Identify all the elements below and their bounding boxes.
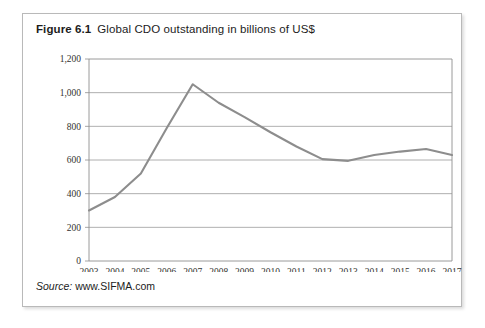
x-axis-tick-label: 2014	[365, 267, 384, 272]
x-axis-tick-label: 2017	[443, 267, 462, 272]
y-axis-tick-label: 800	[67, 122, 82, 132]
y-axis-tick-label: 1,000	[60, 88, 82, 98]
figure-title: Global CDO outstanding in billions of US…	[97, 23, 315, 35]
grid-lines	[85, 59, 452, 261]
x-axis-tick-label: 2010	[261, 267, 280, 272]
data-line	[89, 84, 452, 210]
y-axis-tick-label: 0	[76, 256, 81, 266]
series-line	[89, 84, 452, 210]
x-axis-tick-label: 2003	[80, 267, 99, 272]
y-axis-tick-label: 400	[67, 189, 82, 199]
x-axis-tick-label: 2013	[339, 267, 358, 272]
y-axis-tick-label: 1,200	[60, 54, 82, 64]
y-axis-tick-label: 600	[67, 155, 82, 165]
x-axis-tick-label: 2005	[131, 267, 150, 272]
y-axis-tick-label: 200	[67, 223, 82, 233]
x-axis-tick-label: 2006	[157, 267, 176, 272]
figure-number: Figure 6.1	[36, 23, 91, 35]
y-axis-tick-labels: 02004006008001,0001,200	[60, 54, 82, 266]
x-axis-tick-label: 2008	[209, 267, 228, 272]
x-axis-tick-labels: 2003200420052006200720082009201020112012…	[80, 267, 462, 272]
figure-caption: Figure 6.1Global CDO outstanding in bill…	[36, 23, 315, 35]
source-note: Source:www.SIFMA.com	[36, 280, 155, 292]
x-axis-tick-label: 2016	[417, 267, 436, 272]
line-chart-svg: 02004006008001,0001,200 2003200420052006…	[23, 44, 463, 272]
x-axis-tick-label: 2009	[235, 267, 254, 272]
x-axis-tick-label: 2012	[313, 267, 332, 272]
chart-plot-area: 02004006008001,0001,200 2003200420052006…	[23, 44, 463, 272]
source-label: Source:	[36, 280, 72, 292]
x-axis-tick-label: 2007	[183, 267, 202, 272]
x-axis-tick-label: 2015	[391, 267, 410, 272]
figure-panel: Figure 6.1Global CDO outstanding in bill…	[22, 13, 462, 307]
source-url: www.SIFMA.com	[75, 280, 155, 292]
x-axis-tick-label: 2011	[287, 267, 306, 272]
x-axis-tick-label: 2004	[105, 267, 124, 272]
